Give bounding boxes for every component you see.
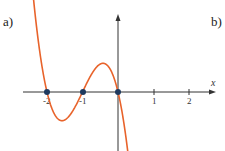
tick-2: 2 [187,96,192,106]
x-axis-label: x [210,77,216,88]
tick-1: 1 [152,96,157,106]
x-axis-arrow-icon [209,90,216,95]
root-point [44,89,50,95]
root-point [115,89,121,95]
y-axis-arrow-icon [116,14,121,21]
root-point [80,89,86,95]
cubic-graph: -2 -1 1 2 x [0,0,225,151]
curve [29,0,132,151]
